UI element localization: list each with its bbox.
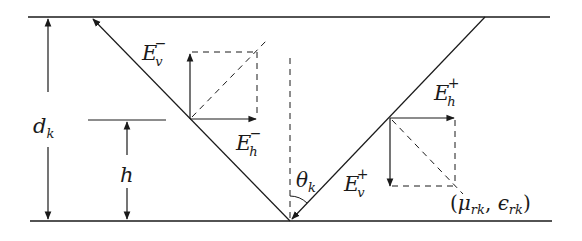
plus-resultant <box>392 120 463 194</box>
eh-minus-label: Eh− <box>235 125 261 159</box>
angle-arc <box>290 196 307 203</box>
eh-plus-label: Eh+ <box>433 75 459 109</box>
ev-plus-label: Ev+ <box>343 166 368 200</box>
h-label: h <box>120 163 134 187</box>
diagram-svg: dk h θk Ev− Eh− Eh+ Ev+ (μrk, ϵrk) <box>0 0 582 241</box>
dk-label: dk <box>33 114 54 141</box>
ev-minus-label: Ev− <box>141 35 166 69</box>
layer-diagram: dk h θk Ev− Eh− Eh+ Ev+ (μrk, ϵrk) <box>0 0 582 241</box>
medium-params-label: (μrk, ϵrk) <box>450 191 531 217</box>
incident-ray <box>292 17 485 219</box>
theta-label: θk <box>296 168 316 195</box>
